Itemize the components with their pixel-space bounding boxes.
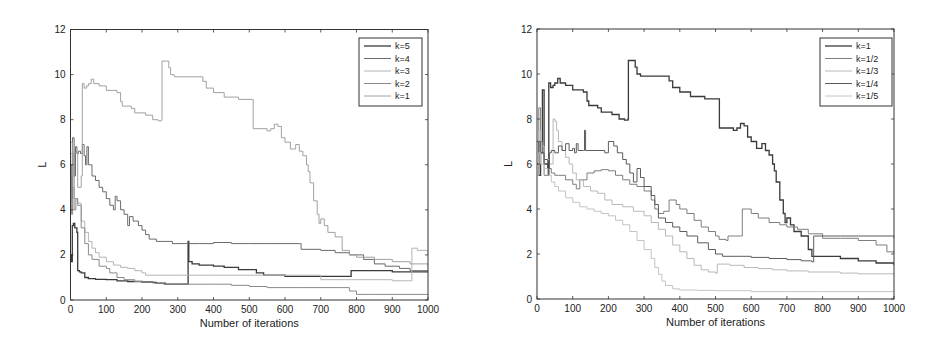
legend-label: k=2 [395, 79, 410, 89]
legend-label: k=4 [395, 54, 410, 64]
x-axis-label: Number of iterations [666, 316, 766, 328]
series-line-k-2 [71, 154, 429, 295]
x-tick-label: 300 [636, 303, 653, 314]
y-axis-label: L [36, 162, 48, 168]
y-tick-label: 8 [60, 114, 66, 125]
x-tick-label: 200 [134, 304, 151, 315]
y-tick-label: 12 [54, 24, 66, 35]
y-tick-label: 6 [60, 159, 66, 170]
y-tick-label: 6 [526, 159, 532, 170]
x-tick-label: 0 [534, 303, 540, 314]
x-tick-label: 1000 [417, 304, 440, 315]
x-tick-label: 300 [169, 304, 186, 315]
chart-left: 0100200300400500600700800900100002468101… [0, 0, 470, 349]
series-line-k-1-4 [537, 130, 894, 262]
legend-label: k=1/4 [856, 79, 878, 89]
y-tick-label: 10 [54, 69, 66, 80]
legend-label: k=1/5 [856, 91, 878, 101]
x-tick-label: 0 [68, 304, 74, 315]
y-tick-label: 10 [521, 69, 533, 80]
y-tick-label: 4 [60, 204, 66, 215]
legend-label: k=1/2 [856, 54, 878, 64]
x-tick-label: 700 [779, 303, 796, 314]
x-tick-label: 400 [671, 303, 688, 314]
x-tick-label: 900 [850, 303, 867, 314]
x-tick-label: 1000 [883, 303, 906, 314]
x-tick-label: 100 [564, 303, 581, 314]
x-tick-label: 600 [277, 304, 294, 315]
series-line-k-1-2 [537, 108, 894, 254]
y-tick-label: 4 [526, 204, 532, 215]
legend-label: k=1/3 [856, 66, 878, 76]
y-axis-label: L [502, 161, 514, 167]
series-line-k-1-5 [537, 153, 894, 292]
legend: k=5k=4k=3k=2k=1 [359, 38, 422, 106]
y-tick-label: 2 [60, 249, 66, 260]
y-tick-label: 0 [526, 294, 532, 305]
chart-right: 0100200300400500600700800900100002468101… [470, 0, 947, 349]
series-line-k-4 [71, 138, 429, 271]
y-tick-label: 12 [521, 24, 533, 35]
x-axis-label: Number of iterations [200, 317, 300, 329]
y-tick-label: 8 [526, 114, 532, 125]
x-tick-label: 800 [348, 304, 365, 315]
legend-label: k=1 [395, 91, 410, 101]
x-tick-label: 200 [600, 303, 617, 314]
x-tick-label: 900 [384, 304, 401, 315]
figure-left-k-integers: 0100200300400500600700800900100002468101… [0, 0, 470, 349]
x-tick-label: 800 [814, 303, 831, 314]
legend-label: k=3 [395, 66, 410, 76]
legend: k=1k=1/2k=1/3k=1/4k=1/5 [820, 38, 892, 106]
y-tick-label: 0 [60, 295, 66, 306]
y-tick-label: 2 [526, 249, 532, 260]
figure-right-k-fractions: 0100200300400500600700800900100002468101… [470, 0, 947, 349]
legend-label: k=5 [395, 41, 410, 51]
legend-label: k=1 [856, 41, 871, 51]
x-tick-label: 500 [707, 303, 724, 314]
x-tick-label: 700 [312, 304, 329, 315]
x-tick-label: 400 [205, 304, 222, 315]
x-tick-label: 500 [241, 304, 258, 315]
x-tick-label: 600 [743, 303, 760, 314]
x-tick-label: 100 [98, 304, 115, 315]
